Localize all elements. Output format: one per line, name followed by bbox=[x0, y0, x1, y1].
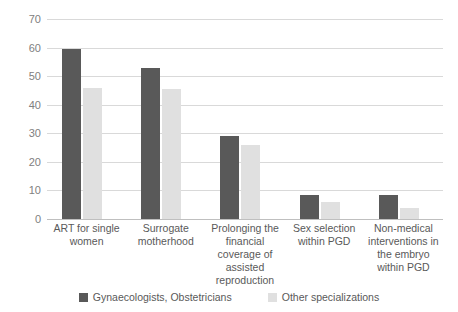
bar-1-3 bbox=[321, 202, 340, 219]
legend-swatch-icon bbox=[268, 293, 277, 302]
chart-legend: Gynaecologists, ObstetriciansOther speci… bbox=[0, 288, 458, 306]
legend-item-0[interactable]: Gynaecologists, Obstetricians bbox=[79, 292, 232, 303]
bar-group bbox=[126, 19, 205, 219]
y-axis-tick-label: 60 bbox=[0, 42, 41, 53]
y-axis-tick-label: 40 bbox=[0, 99, 41, 110]
bars-layer bbox=[47, 19, 443, 219]
bar-group bbox=[285, 19, 364, 219]
legend-swatch-icon bbox=[79, 293, 88, 302]
bar-1-2 bbox=[241, 145, 260, 219]
bar-0-4 bbox=[379, 195, 398, 219]
y-axis-tick-label: 10 bbox=[0, 185, 41, 196]
bar-group bbox=[47, 19, 126, 219]
bar-0-3 bbox=[300, 195, 319, 219]
bar-1-1 bbox=[162, 89, 181, 219]
gridline-0 bbox=[47, 219, 443, 220]
x-axis-label: Prolonging the financial coverage of ass… bbox=[205, 222, 284, 287]
y-axis-tick-label: 0 bbox=[0, 214, 41, 225]
bar-chart: 010203040506070 ART for single womenSurr… bbox=[0, 0, 458, 312]
legend-label: Gynaecologists, Obstetricians bbox=[93, 292, 232, 303]
y-axis-tick-label: 70 bbox=[0, 14, 41, 25]
y-axis: 010203040506070 bbox=[0, 19, 41, 219]
x-axis-label: ART for single women bbox=[47, 222, 126, 248]
x-axis-category-labels: ART for single womenSurrogate motherhood… bbox=[47, 222, 443, 284]
bar-1-4 bbox=[400, 208, 419, 219]
x-axis-label: Sex selection within PGD bbox=[285, 222, 364, 248]
y-axis-tick-label: 30 bbox=[0, 128, 41, 139]
bar-0-2 bbox=[220, 136, 239, 219]
legend-item-1[interactable]: Other specializations bbox=[268, 292, 379, 303]
legend-label: Other specializations bbox=[282, 292, 379, 303]
bar-group bbox=[205, 19, 284, 219]
x-axis-label: Non-medical interventions in the embryo … bbox=[364, 222, 443, 274]
y-axis-tick-label: 50 bbox=[0, 71, 41, 82]
bar-1-0 bbox=[83, 88, 102, 219]
x-axis-label: Surrogate motherhood bbox=[126, 222, 205, 248]
bar-0-1 bbox=[141, 68, 160, 219]
bar-group bbox=[364, 19, 443, 219]
bar-0-0 bbox=[62, 49, 81, 219]
y-axis-tick-label: 20 bbox=[0, 156, 41, 167]
